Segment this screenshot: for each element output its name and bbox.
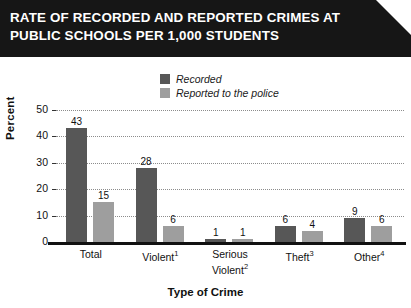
y-tick-label: 40	[22, 129, 48, 141]
bar-recorded: 43	[66, 128, 87, 242]
legend-item-reported: Reported to the police	[160, 86, 300, 99]
y-axis-title: Percent	[4, 96, 16, 140]
bar-group: 286	[126, 110, 196, 242]
bar-recorded: 9	[344, 218, 365, 242]
bar-recorded: 6	[275, 226, 296, 242]
legend-swatch-recorded	[160, 74, 170, 84]
bar-group: 96	[334, 110, 404, 242]
x-category-label: Theft3	[260, 248, 340, 263]
x-category-label: SeriousViolent2	[190, 248, 270, 276]
x-axis-line	[48, 242, 406, 245]
y-tick-label: 30	[22, 156, 48, 168]
bar-reported: 6	[371, 226, 392, 242]
page-title: RATE OF RECORDED AND REPORTED CRIMES AT …	[10, 9, 360, 44]
x-category-label: Other4	[329, 248, 409, 263]
legend-swatch-reported	[160, 88, 170, 98]
y-tick-label: 50	[22, 103, 48, 115]
title-line-2: PUBLIC SCHOOLS PER 1,000 STUDENTS	[10, 27, 360, 45]
x-category-label: Violent1	[120, 248, 200, 263]
bar-value-label: 6	[170, 214, 176, 225]
bar-value-label: 6	[283, 214, 289, 225]
bar-value-label: 9	[352, 206, 358, 217]
bar-group: 11	[195, 110, 265, 242]
bar-value-label: 28	[141, 156, 152, 167]
y-tick-label: 10	[22, 209, 48, 221]
bar-reported: 6	[163, 226, 184, 242]
bar-value-label: 1	[213, 227, 219, 238]
legend-label-recorded: Recorded	[176, 73, 222, 85]
chart-legend: Recorded Reported to the police	[160, 72, 300, 100]
bar-value-label: 6	[379, 214, 385, 225]
plot-area: 4315286116496	[56, 110, 404, 242]
x-category-label: Total	[51, 248, 131, 261]
y-tick-label: 20	[22, 182, 48, 194]
bar-value-label: 4	[310, 219, 316, 230]
bar-reported: 4	[302, 231, 323, 242]
bar-recorded: 28	[136, 168, 157, 242]
bar-value-label: 43	[71, 116, 82, 127]
y-tick-label: 0	[22, 235, 48, 247]
bar-group: 4315	[56, 110, 126, 242]
legend-item-recorded: Recorded	[160, 72, 300, 85]
bar-value-label: 15	[98, 190, 109, 201]
legend-label-reported: Reported to the police	[176, 87, 279, 99]
title-line-1: RATE OF RECORDED AND REPORTED CRIMES AT	[10, 9, 360, 27]
bar-reported: 15	[93, 202, 114, 242]
bar-value-label: 1	[240, 227, 246, 238]
bar-group: 64	[265, 110, 335, 242]
x-axis-title: Type of Crime	[0, 286, 411, 298]
